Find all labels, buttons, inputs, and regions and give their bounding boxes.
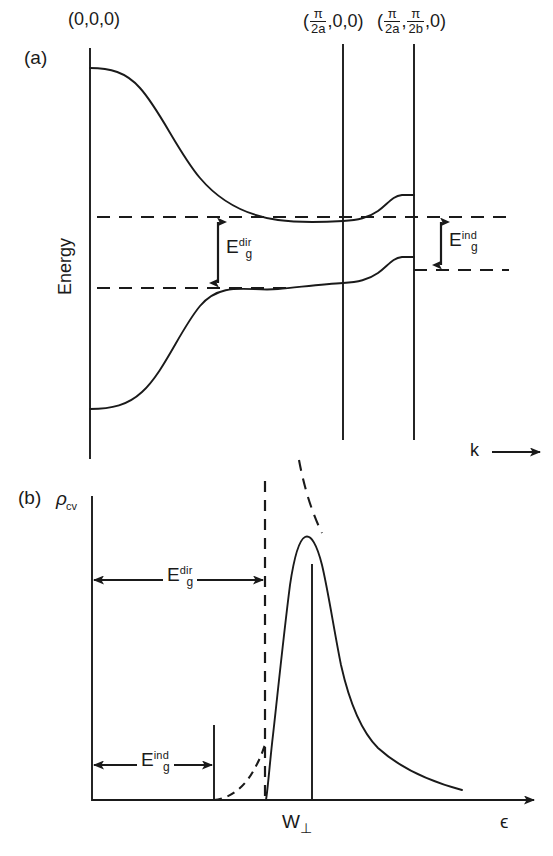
w-perp-label: W⊥ <box>282 812 312 831</box>
direct-edge-asymptote-curve <box>299 460 322 533</box>
conduction-band-curve <box>90 68 414 222</box>
rho-subscript: cv <box>66 500 77 512</box>
k-point-xy-denominator-1: 2a <box>384 21 400 36</box>
indirect-gap-base-b: E <box>141 749 154 770</box>
figure-svg <box>0 0 553 856</box>
figure-root: (a) (0,0,0) (π2a,0,0) (π2a,π2b,0) Energy… <box>0 0 553 856</box>
indirect-gap-sub-a: g <box>471 240 478 254</box>
k-point-xy-fraction-2: π2b <box>407 7 423 35</box>
panel-a-indirect-gap-label: Eindg <box>449 230 478 249</box>
direct-gap-sub-a: g <box>246 247 253 261</box>
panel-b-tag: (b) <box>18 488 41 507</box>
k-point-x-suffix: ,0,0) <box>327 11 363 31</box>
panel-a-y-axis-label: Energy <box>56 238 74 295</box>
k-point-x-denominator: 2a <box>310 21 326 36</box>
direct-gap-base-b: E <box>167 564 180 585</box>
k-point-label-xy: (π2a,π2b,0) <box>377 8 446 36</box>
k-point-xy-suffix: ,0) <box>425 11 446 31</box>
k-point-xy-separator: , <box>401 11 406 31</box>
direct-gap-sub-b: g <box>187 575 194 589</box>
k-point-label-x: (π2a,0,0) <box>303 8 364 36</box>
panel-b-y-axis-label: ρcv <box>56 489 77 508</box>
k-point-x-numerator: π <box>310 7 326 21</box>
k-point-xy-numerator-2: π <box>407 7 423 21</box>
k-point-xy-denominator-2: 2b <box>407 21 423 36</box>
indirect-gap-sub-b: g <box>163 760 170 774</box>
rho-cv-curve <box>266 537 462 800</box>
panel-b-direct-gap-label: Edirg <box>163 565 197 584</box>
k-point-xy-numerator-1: π <box>384 7 400 21</box>
k-point-xy-prefix: ( <box>377 11 383 31</box>
indirect-absorption-tail-curve <box>214 741 266 800</box>
w-perp-subscript: ⊥ <box>300 820 312 836</box>
panel-a-tag: (a) <box>24 48 47 67</box>
panel-a-x-axis-label: k <box>470 441 479 459</box>
panel-b-x-axis-label: ϵ <box>500 812 508 831</box>
indirect-gap-base-a: E <box>449 229 462 250</box>
k-point-x-fraction: π2a <box>310 7 326 35</box>
panel-b-indirect-gap-label: Eindg <box>137 750 174 769</box>
k-point-xy-fraction-1: π2a <box>384 7 400 35</box>
valence-band-curve <box>90 257 414 409</box>
k-point-label-gamma: (0,0,0) <box>68 10 120 28</box>
panel-a-direct-gap-label: Edirg <box>226 237 252 256</box>
direct-gap-base-a: E <box>226 236 239 257</box>
k-point-x-prefix: ( <box>303 11 309 31</box>
w-symbol: W <box>282 811 300 832</box>
